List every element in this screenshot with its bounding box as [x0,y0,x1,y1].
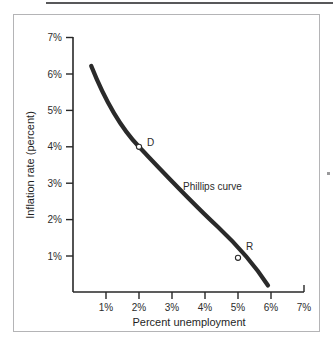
y-tick-label-7: 7% [48,32,63,43]
x-tick-label-1: 1% [99,302,114,313]
phillips-curve-chart: 7% 6% 5% 4% 3% 2% 1% 1% 2% 3% 4% 5% 6% 7… [14,15,319,331]
x-tick-label-3: 3% [165,302,180,313]
phillips-curve-line [91,66,268,286]
x-tick-label-5: 5% [231,302,246,313]
x-tick-label-2: 2% [132,302,147,313]
y-tick-label-6: 6% [48,69,63,80]
x-tick-label-4: 4% [198,302,213,313]
y-tick-label-1: 1% [48,251,63,262]
data-point-d-label: D [147,137,154,148]
x-tick-label-6: 6% [264,302,279,313]
y-tick-label-3: 3% [48,178,63,189]
data-point-r-marker [235,255,240,260]
y-axis-tick-labels: 7% 6% 5% 4% 3% 2% 1% [48,32,63,262]
x-axis-title: Percent unemployment [132,316,245,328]
phillips-curve-annotation: Phillips curve [183,181,242,192]
data-point-d-marker [136,144,141,149]
data-point-r-label: R [246,241,253,252]
y-tick-label-2: 2% [48,214,63,225]
figure-frame: 7% 6% 5% 4% 3% 2% 1% 1% 2% 3% 4% 5% 6% 7… [13,14,320,332]
page-edge-speck [327,172,330,175]
y-tick-label-4: 4% [48,141,63,152]
y-tick-label-5: 5% [48,105,63,116]
y-axis-title: Inflation rate (percent) [24,111,36,219]
x-axis-tick-labels: 1% 2% 3% 4% 5% 6% 7% [99,302,312,313]
page-scan-edge-bar [46,2,333,4]
y-axis-ticks [66,38,73,257]
x-tick-label-7: 7% [297,302,312,313]
